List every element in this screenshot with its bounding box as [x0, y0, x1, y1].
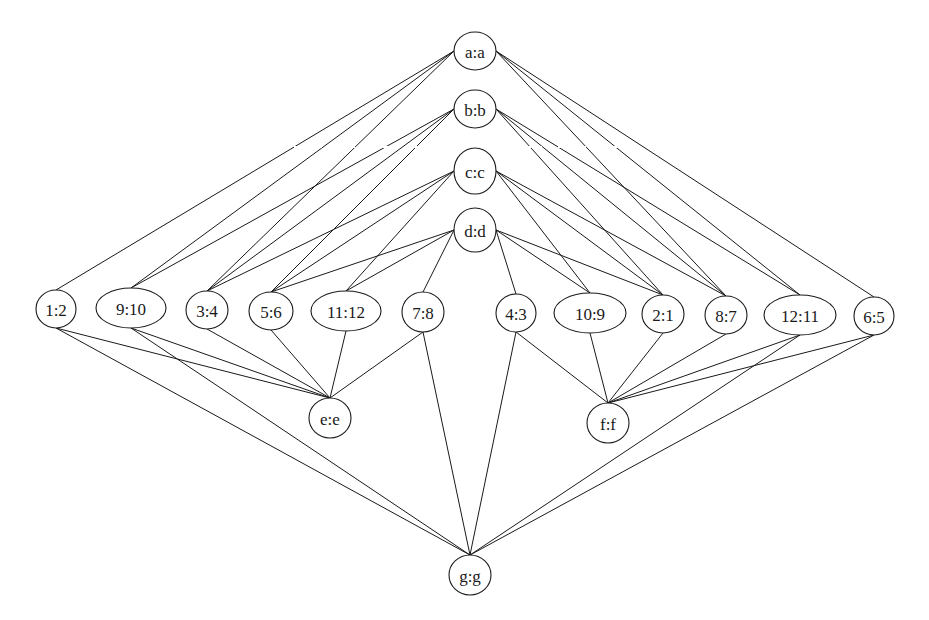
edge-c-n3_4	[207, 171, 454, 291]
node-n5_6: 5:6	[249, 292, 293, 330]
node-c: c:c	[454, 148, 496, 194]
node-label: 5:6	[260, 303, 282, 322]
edge-n2_1-f	[608, 333, 663, 403]
lattice-diagram: a:ab:bc:cd:d1:29:103:45:611:127:84:310:9…	[0, 0, 929, 620]
edge-n10_9-f	[590, 333, 608, 403]
edge-c-n8_7	[496, 171, 726, 296]
node-label: b:b	[464, 101, 486, 120]
node-label: 11:12	[327, 303, 365, 322]
node-a: a:a	[454, 32, 496, 70]
node-label: 6:5	[863, 308, 885, 327]
edge-b-n5_6	[271, 109, 454, 292]
edge-a-n1_2	[56, 51, 454, 290]
edge-n12_11-f	[608, 335, 800, 403]
node-n1_2: 1:2	[36, 290, 76, 328]
node-label: 12:11	[781, 307, 819, 326]
edge-n9_10-g	[131, 328, 470, 555]
node-e: e:e	[309, 398, 351, 438]
edge-a-n8_7	[496, 51, 726, 296]
edge-n7_8-e	[330, 332, 423, 398]
node-n11_12: 11:12	[311, 291, 381, 331]
edge-c-n11_12	[346, 171, 454, 291]
edge-c-n5_6	[271, 171, 454, 292]
node-label: g:g	[459, 567, 481, 586]
edge-n7_8-g	[423, 332, 470, 555]
edge-d-n5_6	[271, 230, 454, 292]
node-label: d:d	[464, 222, 486, 241]
edge-b-n8_7	[496, 109, 726, 296]
node-d: d:d	[454, 208, 496, 252]
node-f: f:f	[587, 403, 629, 443]
node-n7_8: 7:8	[402, 292, 444, 332]
edge-n1_2-e	[56, 328, 330, 398]
node-label: 8:7	[715, 307, 737, 326]
edge-n8_7-f	[608, 334, 726, 403]
node-n10_9: 10:9	[554, 293, 626, 333]
edges-layer	[56, 51, 874, 555]
node-label: 4:3	[505, 305, 527, 324]
node-n8_7: 8:7	[705, 296, 747, 334]
edge-n6_5-g	[470, 335, 874, 555]
node-n9_10: 9:10	[96, 288, 166, 328]
node-label: 10:9	[575, 305, 605, 324]
edge-n3_4-e	[207, 329, 330, 398]
node-n6_5: 6:5	[854, 297, 894, 335]
edge-d-n11_12	[346, 230, 454, 291]
edge-c-n2_1	[496, 171, 663, 295]
node-label: f:f	[600, 415, 616, 434]
node-label: a:a	[465, 43, 485, 62]
node-g: g:g	[449, 555, 491, 595]
node-label: 3:4	[196, 302, 218, 321]
node-label: 7:8	[412, 304, 434, 323]
node-n3_4: 3:4	[186, 291, 228, 329]
edge-a-n3_4	[207, 51, 454, 291]
nodes-layer: a:ab:bc:cd:d1:29:103:45:611:127:84:310:9…	[36, 32, 894, 595]
node-b: b:b	[454, 90, 496, 128]
node-n4_3: 4:3	[496, 294, 536, 332]
edge-d-n4_3	[496, 230, 516, 294]
edge-b-n3_4	[207, 109, 454, 291]
edge-a-n6_5	[496, 51, 874, 297]
edge-a-n12_11	[496, 51, 800, 295]
edge-d-n2_1	[496, 230, 663, 295]
node-label: e:e	[320, 410, 340, 429]
edge-b-n12_11	[496, 109, 800, 295]
edge-n1_2-g	[56, 328, 470, 555]
node-n12_11: 12:11	[764, 295, 836, 335]
edge-n6_5-f	[608, 335, 874, 403]
edge-n4_3-f	[516, 332, 608, 403]
node-label: 1:2	[45, 301, 67, 320]
node-label: c:c	[465, 163, 485, 182]
node-label: 2:1	[652, 306, 674, 325]
edge-b-n9_10	[131, 109, 454, 288]
node-label: 9:10	[116, 300, 146, 319]
edge-a-n9_10	[131, 51, 454, 288]
edge-n4_3-g	[470, 332, 516, 555]
node-n2_1: 2:1	[642, 295, 684, 333]
